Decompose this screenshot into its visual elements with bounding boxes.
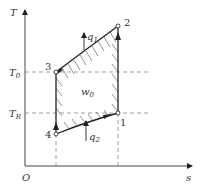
t-axis-label: T xyxy=(10,7,18,18)
q1-label: q1 xyxy=(87,31,98,44)
q2-label: q2 xyxy=(89,131,100,144)
arrow-4-3-icon xyxy=(53,122,59,130)
point-2-label: 2 xyxy=(124,17,130,28)
s-axis-label: s xyxy=(186,172,191,183)
arrow-1-2-icon xyxy=(115,32,121,40)
t0-label: T0 xyxy=(9,67,21,80)
cycle xyxy=(56,26,118,134)
ts-diagram: T s O T0 TR 3 2 1 4 q1 q2 w0 xyxy=(0,0,201,189)
ts-diagram-svg: T s O T0 TR 3 2 1 4 q1 q2 w0 xyxy=(0,0,201,189)
point-2 xyxy=(116,24,120,28)
arrow-1-4-icon xyxy=(103,114,112,119)
tr-label: TR xyxy=(9,108,22,121)
point-1 xyxy=(116,111,120,115)
point-4-label: 4 xyxy=(45,129,51,140)
point-3 xyxy=(54,70,58,74)
point-4 xyxy=(54,132,58,136)
w0-label: w0 xyxy=(81,86,95,99)
point-3-label: 3 xyxy=(45,61,51,72)
point-1-label: 1 xyxy=(120,117,126,128)
origin-label: O xyxy=(22,172,30,183)
